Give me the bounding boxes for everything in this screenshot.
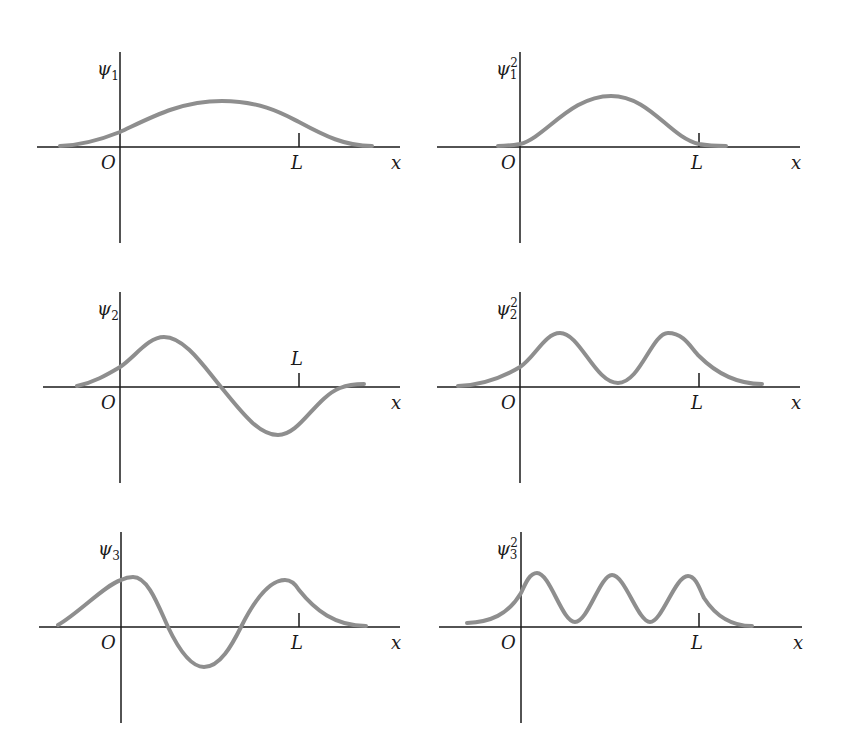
L-label: L (690, 392, 703, 413)
ylabel-psi1: ψ1 (97, 58, 119, 83)
origin-label: O (101, 632, 116, 653)
panel-psi2: ψ2 O L x (43, 292, 401, 483)
x-label: x (791, 392, 801, 413)
x-label: x (391, 632, 401, 653)
L-label: L (290, 152, 303, 173)
L-label: L (290, 632, 303, 653)
psi2-squared-curve (458, 333, 762, 386)
origin-label: O (101, 392, 116, 413)
origin-label: O (501, 632, 516, 653)
L-label: L (290, 348, 303, 369)
panel-psi3: ψ3 O L x (39, 532, 401, 723)
origin-label: O (501, 392, 516, 413)
x-label: x (391, 392, 401, 413)
ylabel-psi2-squared: ψ22 (496, 296, 518, 322)
figure-canvas: ψ1 O L x ψ21 O L x ψ2 O L x ψ22 O L x (0, 0, 846, 751)
panel-psi3-squared: ψ23 O L x (439, 532, 803, 723)
panel-psi1-squared: ψ21 O L x (437, 52, 801, 243)
origin-label: O (101, 152, 116, 173)
x-label: x (793, 632, 803, 653)
L-label: L (690, 152, 703, 173)
ylabel-psi3: ψ3 (98, 538, 120, 563)
x-label: x (791, 152, 801, 173)
ylabel-psi1-squared: ψ21 (496, 56, 518, 82)
psi1-curve (60, 101, 372, 146)
psi3-squared-curve (467, 573, 752, 626)
x-label: x (391, 152, 401, 173)
origin-label: O (501, 152, 516, 173)
ylabel-psi3-squared: ψ23 (496, 536, 518, 562)
psi3-curve (58, 577, 366, 667)
panel-psi2-squared: ψ22 O L x (437, 292, 801, 483)
ylabel-psi2: ψ2 (97, 298, 119, 323)
psi1-squared-curve (498, 96, 726, 146)
L-label: L (690, 632, 703, 653)
panel-psi1: ψ1 O L x (37, 52, 401, 243)
